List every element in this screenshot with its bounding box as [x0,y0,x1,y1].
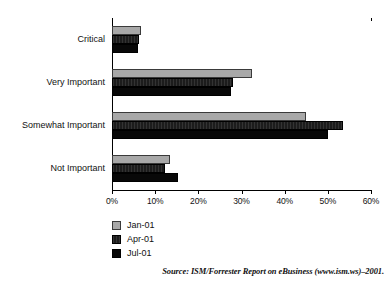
bar [112,121,343,130]
x-tick-label: 50% [320,196,336,206]
legend-label: Jul-01 [127,248,152,258]
x-tick-label: 40% [276,196,292,206]
legend-label: Apr-01 [127,234,154,244]
bar [112,173,178,182]
x-tick-mark [371,190,372,194]
x-tick-mark [242,190,243,194]
legend-swatch [112,235,121,244]
bar [112,35,139,44]
category-label: Critical [0,34,105,44]
chart-legend: Jan-01Apr-01Jul-01 [112,218,155,260]
legend-label: Jan-01 [127,220,155,230]
x-tick-mark [155,190,156,194]
legend-item: Jul-01 [112,246,155,260]
x-tick-label: 20% [190,196,206,206]
bar [112,164,165,173]
horizontal-bar-chart: CriticalVery ImportantSomewhat Important… [0,0,392,292]
legend-item: Apr-01 [112,232,155,246]
x-tick-label: 60% [363,196,379,206]
x-tick-mark [328,190,329,194]
x-tick-mark [285,190,286,194]
x-tick-label: 30% [233,196,249,206]
legend-item: Jan-01 [112,218,155,232]
category-label: Very Important [0,77,105,87]
legend-swatch [112,249,121,258]
bar [112,78,233,87]
x-tick-label: 0% [106,196,118,206]
x-tick-label: 10% [147,196,163,206]
bar [112,44,138,53]
bar [112,69,252,78]
bar [112,87,231,96]
source-note: Source: ISM/Forrester Report on eBusines… [0,266,384,276]
x-tick-mark-top [371,18,372,21]
x-tick-mark-top [112,18,113,21]
x-tick-mark [112,190,113,194]
bar [112,26,141,35]
x-tick-mark [198,190,199,194]
bar [112,130,328,139]
legend-swatch [112,221,121,230]
category-label: Somewhat Important [0,120,105,130]
bar [112,112,306,121]
bar [112,155,170,164]
category-label: Not Important [0,163,105,173]
plot-area: 0%10%20%30%40%50%60% [112,18,371,190]
